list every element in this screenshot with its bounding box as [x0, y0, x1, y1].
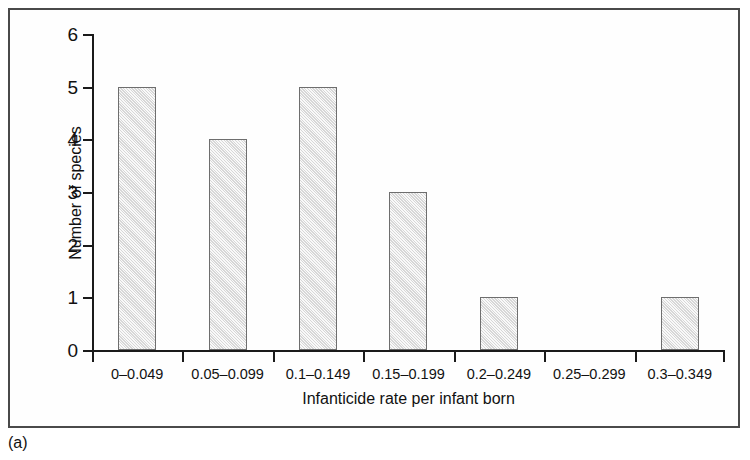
y-axis-tick [83, 350, 92, 352]
y-axis-tick-label: 5 [67, 77, 78, 96]
y-axis-tick [83, 192, 92, 194]
x-axis-tick [635, 352, 637, 362]
x-axis-tick [454, 352, 456, 362]
x-axis-title: Infanticide rate per infant born [92, 390, 725, 408]
y-axis-tick [83, 87, 92, 89]
x-axis-tick-label: 0.25–0.299 [553, 366, 626, 382]
y-axis-tick-label: 3 [67, 183, 78, 202]
bar[interactable] [480, 297, 518, 350]
x-axis-tick [92, 352, 94, 362]
x-axis-line [92, 350, 725, 352]
plot-area: 0123456 [92, 34, 725, 352]
x-axis-tick-label: 0.15–0.199 [372, 366, 445, 382]
y-axis-tick [83, 245, 92, 247]
bar[interactable] [389, 192, 427, 350]
x-axis-tick-label: 0–0.049 [111, 366, 163, 382]
bar-series [92, 34, 725, 350]
bar-slot [182, 34, 272, 350]
bar-slot [454, 34, 544, 350]
bar[interactable] [299, 87, 337, 350]
y-axis-tick [83, 297, 92, 299]
x-axis-tick [723, 352, 725, 362]
figure-frame: Number of species 0123456 0–0.0490.05–0.… [8, 8, 740, 428]
y-axis-tick-label: 6 [67, 25, 78, 44]
bar[interactable] [661, 297, 699, 350]
y-axis-tick-label: 1 [67, 288, 78, 307]
x-axis-tick-label: 0.3–0.349 [648, 366, 713, 382]
x-axis-tick [544, 352, 546, 362]
y-axis-title-container: Number of species [32, 34, 62, 352]
x-axis-tick-label: 0.1–0.149 [286, 366, 351, 382]
x-axis-tick [182, 352, 184, 362]
bar[interactable] [118, 87, 156, 350]
bar-slot [544, 34, 634, 350]
x-axis-tick-label: 0.2–0.249 [467, 366, 532, 382]
bar-slot [273, 34, 363, 350]
x-axis-tick [363, 352, 365, 362]
bar-slot [92, 34, 182, 350]
x-axis-tick [273, 352, 275, 362]
bar-slot [363, 34, 453, 350]
bar[interactable] [209, 139, 247, 350]
figure-caption: (a) [8, 434, 28, 452]
y-axis-tick [83, 34, 92, 36]
y-axis-tick [83, 139, 92, 141]
x-axis-tick-label: 0.05–0.099 [191, 366, 264, 382]
y-axis-tick-label: 2 [67, 235, 78, 254]
bar-slot [635, 34, 725, 350]
y-axis-tick-label: 0 [67, 341, 78, 360]
y-axis-tick-label: 4 [67, 130, 78, 149]
